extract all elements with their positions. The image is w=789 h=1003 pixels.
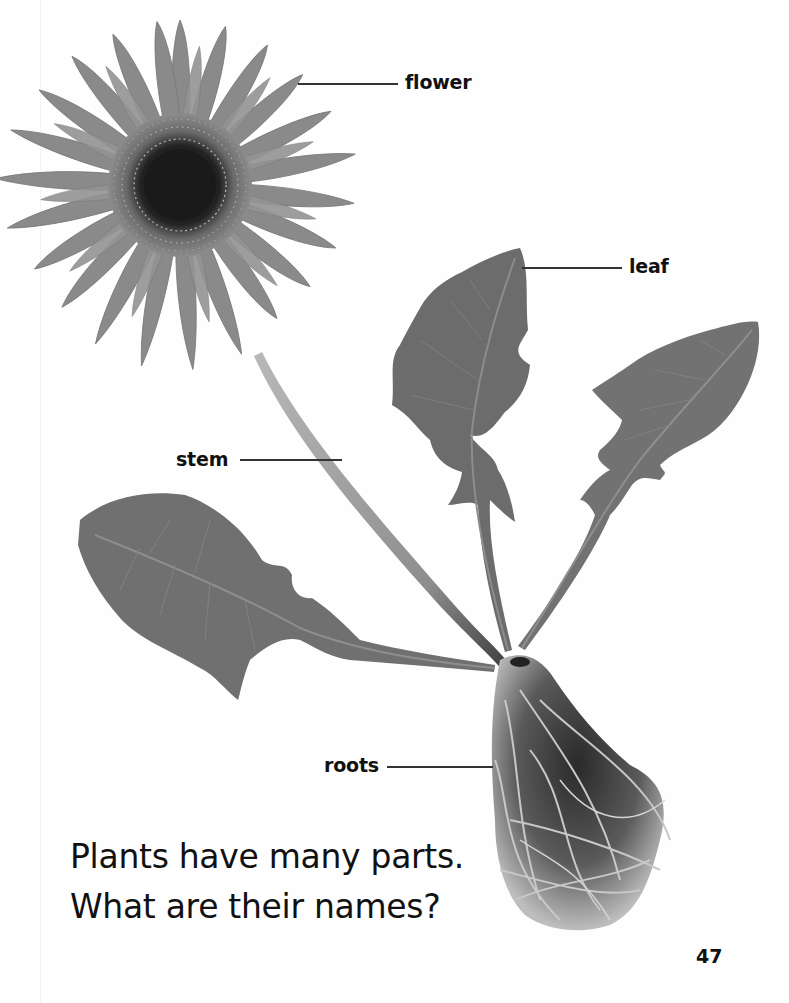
label-roots: roots [324, 756, 379, 775]
caption-line-2: What are their names? [70, 882, 464, 932]
flower-leader-line [298, 83, 398, 85]
page-caption: Plants have many parts. What are their n… [70, 832, 464, 932]
label-flower: flower [405, 73, 471, 92]
caption-line-1: Plants have many parts. [70, 832, 464, 882]
roots [492, 655, 670, 930]
label-stem: stem [176, 450, 228, 469]
stem-leader-line [240, 459, 342, 461]
leaf-right [518, 322, 759, 650]
label-leaf: leaf [629, 257, 669, 276]
leaf-leader-line [522, 267, 622, 269]
page-number: 47 [696, 945, 722, 967]
roots-leader-line [387, 766, 493, 768]
leaf-middle [392, 248, 530, 652]
flower [0, 20, 357, 370]
book-page: flower leaf stem roots Plants have many … [0, 0, 789, 1003]
